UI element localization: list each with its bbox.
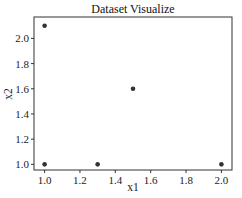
y-tick-label: 1.6 (15, 83, 29, 95)
data-point (219, 162, 224, 167)
x-tick-label: 1.2 (73, 174, 87, 186)
x-tick-label: 1.8 (179, 174, 193, 186)
x-tick-label: 1.6 (144, 174, 158, 186)
x-axis-label: x1 (127, 181, 139, 193)
y-axis-label: x2 (2, 88, 14, 100)
x-tick-label: 1.0 (38, 174, 52, 186)
x-tick-label: 2.0 (215, 174, 229, 186)
data-point (95, 162, 100, 167)
axes-frame (34, 17, 232, 170)
plot-area: 1.01.21.41.61.82.01.01.21.41.61.82.0 (15, 17, 232, 186)
data-point (42, 24, 47, 29)
scatter-chart: Dataset Visualize 1.01.21.41.61.82.01.01… (0, 0, 242, 198)
y-tick-label: 1.8 (15, 58, 29, 70)
y-tick-label: 1.2 (15, 133, 29, 145)
data-point (131, 86, 136, 91)
y-tick-label: 1.0 (15, 158, 29, 170)
y-tick-label: 2.0 (15, 32, 29, 44)
y-tick-label: 1.4 (15, 108, 29, 120)
data-point (42, 162, 47, 167)
chart-title: Dataset Visualize (91, 2, 174, 16)
x-tick-label: 1.4 (108, 174, 122, 186)
